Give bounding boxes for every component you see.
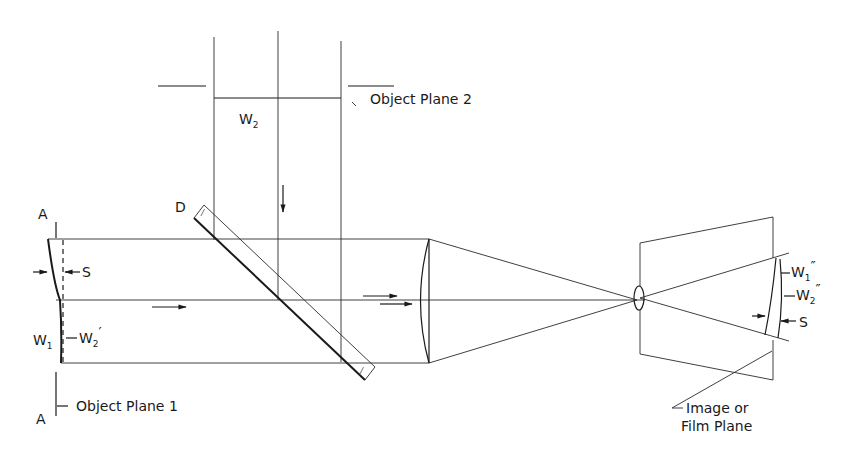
diverging-ray-top — [640, 253, 789, 298]
camera-frame-top — [640, 217, 773, 243]
w2-dprime-label: W2″ — [796, 281, 821, 306]
field-lens-curve — [421, 239, 430, 363]
w1-label: W1 — [33, 332, 53, 351]
field-lens — [421, 239, 638, 363]
w1-dprime-label: W1″ — [791, 258, 816, 283]
w2-prime-label: W2′ — [79, 324, 102, 349]
object-plane-2-label: Object Plane 2 — [370, 91, 472, 107]
plane2-tick — [352, 102, 356, 106]
object-plane-2: Object Plane 2 W2 — [158, 86, 472, 130]
plane-a-top-label: A — [38, 206, 48, 222]
object-plane-1-label: Object Plane 1 — [76, 398, 178, 414]
w2-label: W2 — [239, 111, 259, 130]
diverging-ray-bottom — [640, 298, 789, 341]
camera-lens — [634, 286, 644, 310]
w2-dprime-image-surface — [778, 259, 782, 338]
image-plane-label-line2: Film Plane — [681, 418, 752, 434]
converging-ray-bottom — [429, 300, 637, 363]
s-label-left: S — [82, 264, 91, 280]
beamsplitter-surface — [194, 218, 365, 380]
optical-diagram: Object Plane 2 W2 A A Object Plane 1 S W… — [0, 0, 854, 462]
horizontal-beam — [48, 239, 612, 363]
camera-frame-bottom — [640, 354, 773, 380]
camera: W1″ W2″ S Image or Film Plane — [612, 217, 821, 434]
s-label-right: S — [799, 314, 808, 330]
w1-dprime-image-surface — [765, 258, 776, 335]
beamsplitter-mark-top: ⁄ — [200, 209, 205, 218]
plane-a-bottom-label: A — [36, 411, 46, 427]
beamsplitter-plate — [194, 205, 375, 380]
image-plane-label-line1: Image or — [686, 400, 749, 416]
vertical-rays — [214, 31, 341, 362]
beamsplitter: D ⁄ ⁄ — [175, 199, 375, 380]
converging-ray-top — [429, 239, 637, 300]
beamsplitter-label: D — [175, 199, 186, 215]
